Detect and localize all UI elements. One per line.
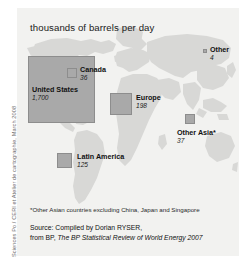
symbol-other: [203, 49, 207, 53]
label-canada-value: 36: [80, 74, 106, 81]
label-europe-value: 198: [136, 102, 161, 109]
symbol-europe: [110, 93, 132, 115]
symbol-other-asia: [185, 114, 195, 124]
label-latin-america: Latin America 125: [77, 153, 124, 168]
label-united-states: United States 1,700: [32, 86, 78, 101]
label-europe: Europe 198: [136, 94, 161, 109]
label-united-states-name: United States: [32, 86, 78, 94]
symbol-latin-america: [57, 153, 72, 168]
label-europe-name: Europe: [136, 94, 161, 102]
label-other-asia: Other Asia* 37: [177, 129, 216, 144]
label-other-asia-value: 37: [177, 137, 216, 144]
label-canada: Canada 36: [80, 66, 106, 81]
symbol-canada: [67, 68, 77, 78]
chart-title: thousands of barrels per day: [30, 22, 154, 33]
source-line-2-plain: from BP,: [30, 234, 57, 241]
label-other-value: 4: [210, 54, 229, 61]
footnote: *Other Asian countries excluding China, …: [30, 206, 200, 213]
credit-rail: Sciences Po / CERI et Atelier de cartogr…: [0, 0, 16, 263]
source-line-2: from BP, The BP Statistical Review of Wo…: [30, 233, 203, 243]
label-canada-name: Canada: [80, 66, 106, 74]
source-line-2-italic: The BP Statistical Review of World Energ…: [57, 234, 202, 241]
label-other-name: Other: [210, 46, 229, 54]
label-other-asia-name: Other Asia*: [177, 129, 216, 137]
label-latin-america-value: 125: [77, 161, 124, 168]
source-block: Source: Compiled by Dorian RYSER, from B…: [30, 223, 203, 243]
label-united-states-value: 1,700: [32, 94, 78, 101]
map-figure: thousands of barrels per day United Stat…: [17, 8, 239, 256]
label-other: Other 4: [210, 46, 229, 61]
label-latin-america-name: Latin America: [77, 153, 124, 161]
source-line-1: Source: Compiled by Dorian RYSER,: [30, 223, 203, 233]
